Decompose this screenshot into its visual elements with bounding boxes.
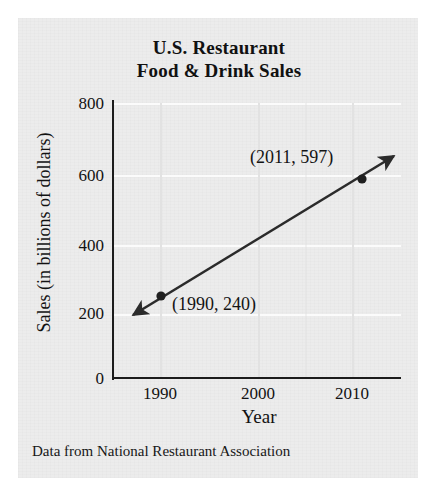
y-tick-600: 600 bbox=[46, 166, 104, 186]
x-tick-2000: 2000 bbox=[223, 384, 293, 404]
x-tick-2010: 2010 bbox=[317, 384, 387, 404]
trend-line-graphic bbox=[113, 103, 401, 378]
y-tick-400: 400 bbox=[46, 236, 104, 256]
data-point-2011 bbox=[357, 174, 366, 183]
y-axis-ticks: 800 600 400 200 0 bbox=[46, 0, 104, 495]
plot-area bbox=[113, 103, 401, 378]
trend-line bbox=[133, 156, 394, 315]
x-axis-line bbox=[112, 377, 401, 379]
annotation-2011: (2011, 597) bbox=[250, 147, 333, 168]
x-tick-1990: 1990 bbox=[125, 384, 195, 404]
y-tick-200: 200 bbox=[46, 304, 104, 324]
x-axis-label: Year bbox=[169, 406, 349, 428]
y-tick-0: 0 bbox=[46, 369, 104, 389]
chart-figure: U.S. Restaurant Food & Drink Sales 800 6 bbox=[0, 0, 438, 495]
y-axis-label: Sales (in billions of dollars) bbox=[34, 108, 55, 358]
data-point-1990 bbox=[156, 291, 165, 300]
annotation-1990: (1990, 240) bbox=[172, 294, 256, 315]
y-axis-line bbox=[112, 100, 114, 380]
y-tick-800: 800 bbox=[46, 94, 104, 114]
source-caption: Data from National Restaurant Associatio… bbox=[32, 443, 290, 460]
